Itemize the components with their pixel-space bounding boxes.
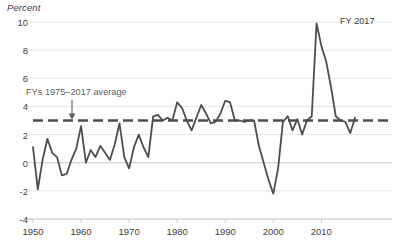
data-line bbox=[33, 23, 355, 193]
x-axis-tick-label: 2010 bbox=[311, 226, 332, 237]
line-chart: Percent 1086420-2-4 FYs 1975–2017 averag… bbox=[0, 0, 394, 244]
x-axis-tick-label: 1960 bbox=[70, 226, 91, 237]
x-axis-tick-label: 1950 bbox=[22, 226, 43, 237]
x-axis-tick-label: 1970 bbox=[119, 226, 140, 237]
x-axis-tick-label: 1980 bbox=[167, 226, 188, 237]
annotation-arrow-head bbox=[69, 114, 76, 120]
plot-area bbox=[0, 0, 394, 244]
average-annotation-label: FYs 1975–2017 average bbox=[26, 87, 127, 97]
x-axis-tick-label: 1990 bbox=[215, 226, 236, 237]
x-axis-tick-label: 2000 bbox=[263, 226, 284, 237]
endpoint-label: FY 2017 bbox=[340, 16, 375, 26]
